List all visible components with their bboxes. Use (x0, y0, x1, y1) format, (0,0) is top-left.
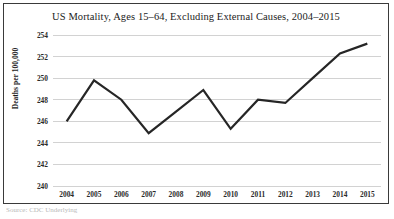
y-tick-label: 254 (22, 31, 48, 40)
plot-area: Deaths per 100,000 240242244246248250252… (4, 4, 390, 203)
x-tick-label: 2015 (350, 190, 384, 199)
y-tick-label: 246 (22, 117, 48, 126)
figure-caption: Source: CDC Underlying (6, 206, 206, 217)
y-tick-label: 240 (22, 182, 48, 191)
y-tick-label: 250 (22, 74, 48, 83)
chart-canvas (4, 4, 390, 203)
y-tick-label: 244 (22, 138, 48, 147)
chart-frame: US Mortality, Ages 15–64, Excluding Exte… (3, 3, 389, 204)
y-tick-label: 252 (22, 52, 48, 61)
y-tick-label: 242 (22, 160, 48, 169)
y-tick-label: 248 (22, 95, 48, 104)
